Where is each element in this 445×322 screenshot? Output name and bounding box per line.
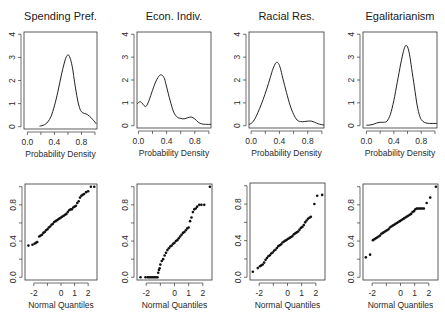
y-tick-label: 4: [346, 32, 356, 37]
panel-bottom-2: -2012Normal Quantiles0.00.40.8: [120, 184, 212, 310]
x-tick-label: 0.4: [49, 137, 61, 147]
qq-point: [159, 263, 162, 266]
qq-point: [139, 276, 142, 279]
x-tick-label: 0.0: [245, 136, 257, 146]
x-tick-label: 2: [86, 288, 91, 298]
panel-title: Racial Res.: [258, 10, 314, 22]
qq-point: [316, 195, 319, 198]
x-axis-label: Probability Density: [365, 148, 436, 158]
y-tick-label: 1: [232, 100, 242, 105]
y-tick-label: 0.4: [346, 235, 356, 247]
x-axis-label: Normal Quantiles: [28, 300, 94, 310]
qq-point: [310, 216, 313, 219]
qq-point: [36, 241, 39, 244]
qq-point: [256, 267, 259, 270]
qq-point: [423, 207, 426, 210]
x-tick-label: -2: [30, 288, 38, 298]
panel-top-1: Spending Pref.0.00.40.8Probability Densi…: [7, 10, 97, 159]
x-axis-label: Probability Density: [25, 149, 96, 159]
panel-bottom-3: -2012Normal Quantiles0.00.40.8: [233, 183, 325, 310]
qq-point: [190, 216, 193, 219]
x-tick-label: 2: [313, 288, 318, 298]
density-curve: [249, 62, 324, 125]
qq-point: [189, 220, 192, 223]
qq-point: [200, 204, 203, 207]
x-axis-label: Normal Quantiles: [255, 300, 321, 310]
density-curve: [137, 75, 211, 125]
qq-point: [187, 226, 190, 229]
qq-point: [263, 261, 266, 264]
qq-point: [90, 185, 93, 188]
x-tick-label: 0: [285, 288, 290, 298]
qq-point: [163, 254, 166, 257]
y-tick-label: 0: [346, 123, 356, 128]
panel-top-4: Egalitarianism0.00.40.8Probability Densi…: [346, 10, 437, 158]
panel-top-3: Racial Res.0.00.40.8Probability Density0…: [232, 10, 324, 158]
qq-point: [321, 194, 324, 197]
y-tick-label: 4: [7, 32, 17, 37]
y-tick-label: 3: [346, 55, 356, 60]
qq-point: [27, 244, 30, 247]
plot-frame: [137, 184, 212, 280]
x-tick-label: 0.0: [132, 136, 144, 146]
x-axis-label: Probability Density: [251, 148, 322, 158]
qq-point: [93, 185, 96, 188]
y-tick-label: 0.0: [233, 271, 243, 283]
x-tick-label: 0: [59, 288, 64, 298]
qq-point: [156, 276, 159, 279]
x-tick-label: 1: [412, 288, 417, 298]
qq-point: [83, 193, 86, 196]
x-tick-label: 0.8: [76, 137, 88, 147]
y-tick-label: 0: [7, 124, 17, 129]
x-tick-label: -2: [142, 288, 150, 298]
y-tick-label: 1: [7, 101, 17, 106]
y-tick-label: 4: [120, 32, 130, 37]
qq-point: [209, 185, 212, 188]
qq-point: [87, 190, 90, 193]
y-tick-label: 2: [7, 78, 17, 83]
x-axis-label: Normal Quantiles: [368, 300, 434, 310]
x-tick-label: -2: [368, 288, 376, 298]
y-tick-label: 0: [232, 123, 242, 128]
x-tick-label: 2: [426, 288, 431, 298]
x-tick-label: 1: [72, 288, 77, 298]
x-tick-label: 0.4: [274, 136, 286, 146]
y-tick-label: 0.8: [233, 198, 243, 210]
y-tick-label: 0.4: [233, 234, 243, 246]
x-tick-label: 1: [186, 288, 191, 298]
y-tick-label: 0.4: [8, 235, 18, 247]
y-tick-label: 0.4: [120, 235, 130, 247]
x-tick-label: 0: [172, 288, 177, 298]
y-tick-label: 2: [232, 77, 242, 82]
qq-point: [157, 271, 160, 274]
qq-point: [369, 253, 372, 256]
x-tick-label: 0: [398, 288, 403, 298]
x-tick-label: -2: [255, 288, 263, 298]
qq-point: [365, 256, 368, 259]
x-tick-label: 2: [200, 288, 205, 298]
y-tick-label: 3: [7, 55, 17, 60]
panel-title: Econ. Indiv.: [146, 10, 203, 22]
y-tick-label: 0: [120, 123, 130, 128]
qq-point: [203, 204, 206, 207]
x-tick-label: 1: [299, 288, 304, 298]
x-tick-label: 0.4: [388, 136, 400, 146]
y-tick-label: 0.0: [120, 271, 130, 283]
x-tick-label: 0.0: [21, 137, 33, 147]
panel-bottom-1: -2012Normal Quantiles0.00.40.8: [8, 184, 97, 310]
x-tick-label: 0.8: [302, 136, 314, 146]
qq-point: [192, 211, 195, 214]
x-axis-label: Probability Density: [139, 148, 210, 158]
plot-frame: [249, 32, 324, 128]
qq-point: [252, 270, 255, 273]
qq-point: [158, 267, 161, 270]
qq-point: [162, 258, 165, 261]
x-tick-label: 0.4: [161, 136, 173, 146]
y-tick-label: 3: [120, 55, 130, 60]
y-tick-label: 2: [346, 77, 356, 82]
y-tick-label: 0.0: [8, 271, 18, 283]
qq-point: [435, 185, 438, 188]
qq-point: [165, 252, 168, 255]
y-tick-label: 0.0: [346, 271, 356, 283]
panel-top-2: Econ. Indiv.0.00.40.8Probability Density…: [120, 10, 211, 158]
